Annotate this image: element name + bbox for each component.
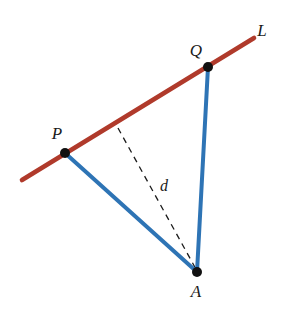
label-point-A: A	[191, 283, 201, 300]
label-distance-d: d	[160, 178, 168, 194]
point-P-dot	[60, 148, 70, 158]
segment-distance-d	[118, 128, 197, 271]
figure-canvas	[0, 0, 290, 313]
label-point-Q: Q	[190, 42, 202, 59]
segment-P-A	[65, 153, 197, 272]
point-A-dot	[192, 267, 202, 277]
geometry-figure: L Q P d A	[0, 0, 290, 313]
segment-Q-A	[197, 67, 208, 272]
line-L	[22, 38, 254, 180]
point-Q-dot	[203, 62, 213, 72]
label-point-P: P	[52, 125, 62, 142]
label-line-L: L	[257, 22, 266, 39]
